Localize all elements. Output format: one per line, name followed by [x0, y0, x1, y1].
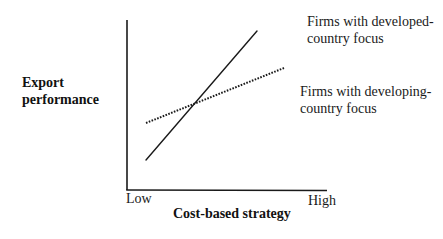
developing-country-label: Firms with developing- country focus: [300, 84, 435, 116]
developing-country-line: [146, 68, 284, 123]
series-lines: [146, 31, 284, 160]
x-axis-label: Cost-based strategy: [173, 206, 291, 221]
developed-country-line: [146, 31, 257, 160]
x-tick-high: High: [308, 193, 336, 208]
x-tick-low: Low: [126, 191, 153, 206]
interaction-chart: Export performance Low High Cost-based s…: [0, 0, 443, 239]
developed-country-label: Firms with developed- country focus: [307, 14, 437, 46]
x-axis: [126, 190, 327, 191]
axes: [126, 20, 327, 191]
y-axis-label: Export performance: [22, 75, 99, 107]
